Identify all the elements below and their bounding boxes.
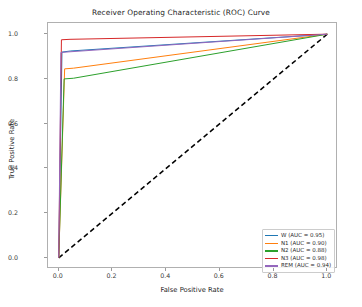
legend-label: N1 (AUC = 0.90) — [281, 240, 327, 248]
y-tick-mark — [44, 257, 47, 258]
y-tick-label: 0.2 — [8, 209, 18, 216]
legend-swatch-n1 — [265, 243, 278, 244]
x-tick-label: 0.6 — [214, 272, 224, 279]
chance-diagonal-line — [59, 34, 328, 258]
legend-label: N2 (AUC = 0.88) — [281, 247, 327, 255]
y-tick-mark — [44, 167, 47, 168]
x-tick-mark — [326, 268, 327, 271]
page-title: Receiver Operating Characteristic (ROC) … — [0, 8, 362, 17]
x-tick-mark — [219, 268, 220, 271]
legend-item-n2: N2 (AUC = 0.88) — [265, 247, 331, 255]
y-tick-label: 0.8 — [8, 74, 18, 81]
y-tick-mark — [44, 123, 47, 124]
x-tick-label: 0.8 — [268, 272, 278, 279]
legend-swatch-n3 — [265, 258, 278, 259]
legend-label: REM (AUC = 0.94) — [281, 262, 331, 270]
x-tick-mark — [165, 268, 166, 271]
x-tick-label: 0.2 — [106, 272, 116, 279]
x-tick-mark — [273, 268, 274, 271]
legend-swatch-rem — [265, 265, 278, 266]
legend-label: W (AUC = 0.95) — [281, 232, 324, 240]
y-tick-label: 0.0 — [8, 253, 18, 260]
x-tick-label: 1.0 — [321, 272, 331, 279]
y-tick-label: 0.4 — [8, 164, 18, 171]
y-tick-mark — [44, 33, 47, 34]
y-axis-label: True Positive Rate — [8, 89, 16, 209]
x-axis-label: False Positive Rate — [47, 286, 337, 294]
legend-item-n1: N1 (AUC = 0.90) — [265, 240, 331, 248]
legend: W (AUC = 0.95)N1 (AUC = 0.90)N2 (AUC = 0… — [262, 229, 335, 273]
legend-item-rem: REM (AUC = 0.94) — [265, 262, 331, 270]
x-tick-label: 0.0 — [53, 272, 63, 279]
legend-label: N3 (AUC = 0.98) — [281, 255, 327, 263]
y-tick-mark — [44, 212, 47, 213]
x-tick-label: 0.4 — [160, 272, 170, 279]
x-tick-mark — [111, 268, 112, 271]
legend-swatch-w — [265, 235, 278, 236]
legend-item-n3: N3 (AUC = 0.98) — [265, 255, 331, 263]
y-tick-label: 0.6 — [8, 119, 18, 126]
legend-item-w: W (AUC = 0.95) — [265, 232, 331, 240]
roc-curve-figure: Receiver Operating Characteristic (ROC) … — [0, 0, 362, 307]
y-tick-mark — [44, 78, 47, 79]
y-tick-label: 1.0 — [8, 30, 18, 37]
x-tick-mark — [58, 268, 59, 271]
legend-swatch-n2 — [265, 250, 278, 251]
